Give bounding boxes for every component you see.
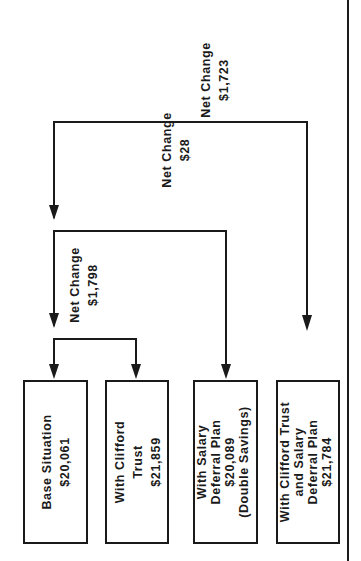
box-base-situation: Base Situation $20,061: [24, 381, 87, 543]
box-with-clifford-trust: With Clifford Trust $21,859: [106, 381, 168, 543]
svg-text:$21,859: $21,859: [149, 437, 163, 486]
svg-text:With Salary: With Salary: [195, 425, 209, 500]
svg-text:$1,798: $1,798: [86, 264, 100, 306]
svg-text:Net Change: Net Change: [68, 247, 82, 322]
net-change-label-28: Net Change $28: [160, 112, 192, 187]
svg-text:Net Change: Net Change: [160, 112, 174, 187]
svg-text:Deferral Plan: Deferral Plan: [306, 420, 320, 505]
arrow-down-icon: [49, 364, 59, 379]
svg-text:$28: $28: [178, 139, 192, 162]
arrow-down-icon: [49, 313, 59, 328]
arrow-down-icon: [131, 364, 141, 379]
box-with-clifford-and-salary: With Clifford Trust and Salary Deferral …: [277, 381, 339, 543]
svg-text:With Clifford Trust: With Clifford Trust: [278, 402, 292, 523]
arrow-down-icon: [221, 364, 231, 379]
arrow-down-icon: [49, 205, 59, 220]
svg-text:With Clifford: With Clifford: [113, 421, 127, 504]
svg-text:$20,089: $20,089: [223, 437, 237, 486]
arrow-down-icon: [302, 315, 312, 331]
svg-text:Deferral Plan: Deferral Plan: [209, 420, 223, 505]
svg-text:$21,784: $21,784: [320, 437, 334, 486]
svg-text:$20,061: $20,061: [58, 437, 72, 486]
svg-text:Base Situation: Base Situation: [40, 414, 54, 509]
svg-text:Net Change: Net Change: [199, 42, 213, 117]
comparison-diagram: Net Change $1,723 Net Change $28 Net Cha…: [0, 0, 361, 561]
net-change-label-1798: Net Change $1,798: [68, 247, 100, 322]
net-change-label-1723: Net Change $1,723: [199, 42, 231, 117]
svg-text:$1,723: $1,723: [217, 59, 231, 101]
box-with-salary-deferral: With Salary Deferral Plan $20,089 (Doubl…: [194, 381, 257, 543]
connector-base-clifford: [49, 339, 141, 379]
svg-text:Trust: Trust: [131, 445, 145, 479]
svg-text:(Double Savings): (Double Savings): [237, 406, 251, 518]
svg-text:and Salary: and Salary: [292, 427, 306, 496]
